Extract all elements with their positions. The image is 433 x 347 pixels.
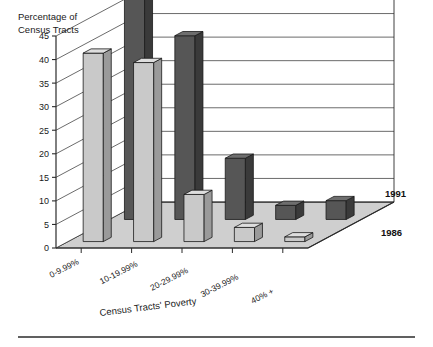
bar-1986-2 — [184, 190, 212, 241]
bar-1986-3 — [234, 223, 262, 241]
y-axis-title-line2: Census Tracts — [18, 24, 79, 35]
y-tick-label: 40 — [39, 55, 49, 65]
bar-front-face — [134, 63, 154, 242]
x-tick-label: 0-9.99% — [48, 256, 81, 279]
x-axis-title: Census Tracts' Poverty — [99, 295, 197, 318]
y-tick-label: 20 — [39, 149, 49, 159]
legend-label-1991: 1991 — [385, 188, 407, 199]
y-tick-label: 30 — [39, 102, 49, 112]
y-tick-label: 35 — [39, 79, 49, 89]
bar-chart-3d: 0510152025303540450-9.99%10-19.99%20-29.… — [0, 0, 433, 347]
y-tick-label: 15 — [39, 173, 49, 183]
y-axis-title: Percentage ofCensus Tracts — [18, 11, 79, 35]
bar-front-face — [285, 237, 305, 242]
chart-legend: 19911986 — [381, 188, 407, 238]
y-tick-label: 25 — [39, 126, 49, 136]
bar-side-face — [103, 49, 111, 242]
y-axis-ticks: 051015202530354045 — [39, 31, 56, 253]
legend-label-1986: 1986 — [381, 227, 402, 238]
x-tick-label: 40% + — [249, 286, 275, 306]
x-tick-label: 10-19.99% — [98, 259, 140, 287]
bar-1986-1 — [134, 58, 162, 241]
bar-front-face — [234, 227, 254, 241]
bar-1991-2 — [225, 154, 253, 219]
bar-front-face — [326, 201, 346, 220]
bar-front-face — [83, 53, 103, 241]
bar-front-face — [276, 205, 296, 219]
y-tick-label: 5 — [44, 220, 49, 230]
chart-figure: 0510152025303540450-9.99%10-19.99%20-29.… — [0, 0, 433, 347]
bar-side-face — [154, 58, 162, 241]
y-tick-label: 10 — [39, 196, 49, 206]
bar-1986-0 — [83, 49, 111, 242]
bar-front-face — [184, 194, 204, 241]
bar-side-face — [204, 190, 212, 241]
y-tick-label: 0 — [44, 243, 49, 253]
bar-side-face — [245, 154, 253, 219]
x-axis-labels: 0-9.99%10-19.99%20-29.99%30-39.99%40% + — [48, 248, 283, 306]
bar-front-face — [225, 158, 245, 219]
y-axis-title-line1: Percentage of — [18, 11, 78, 22]
x-tick-label: 30-39.99% — [199, 272, 241, 300]
bar-1991-4 — [326, 196, 354, 219]
bar-1991-3 — [276, 201, 304, 219]
x-tick-label: 20-29.99% — [148, 265, 190, 293]
